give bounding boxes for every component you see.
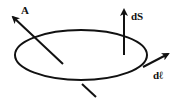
area-element-label: dS: [131, 10, 143, 22]
line-element-label: dℓ: [153, 69, 164, 81]
vector-a-tail: [82, 84, 96, 97]
vector-a-arrow: [13, 17, 63, 64]
loop-diagram: A dS dℓ: [0, 0, 177, 102]
vector-a-label: A: [21, 4, 29, 16]
